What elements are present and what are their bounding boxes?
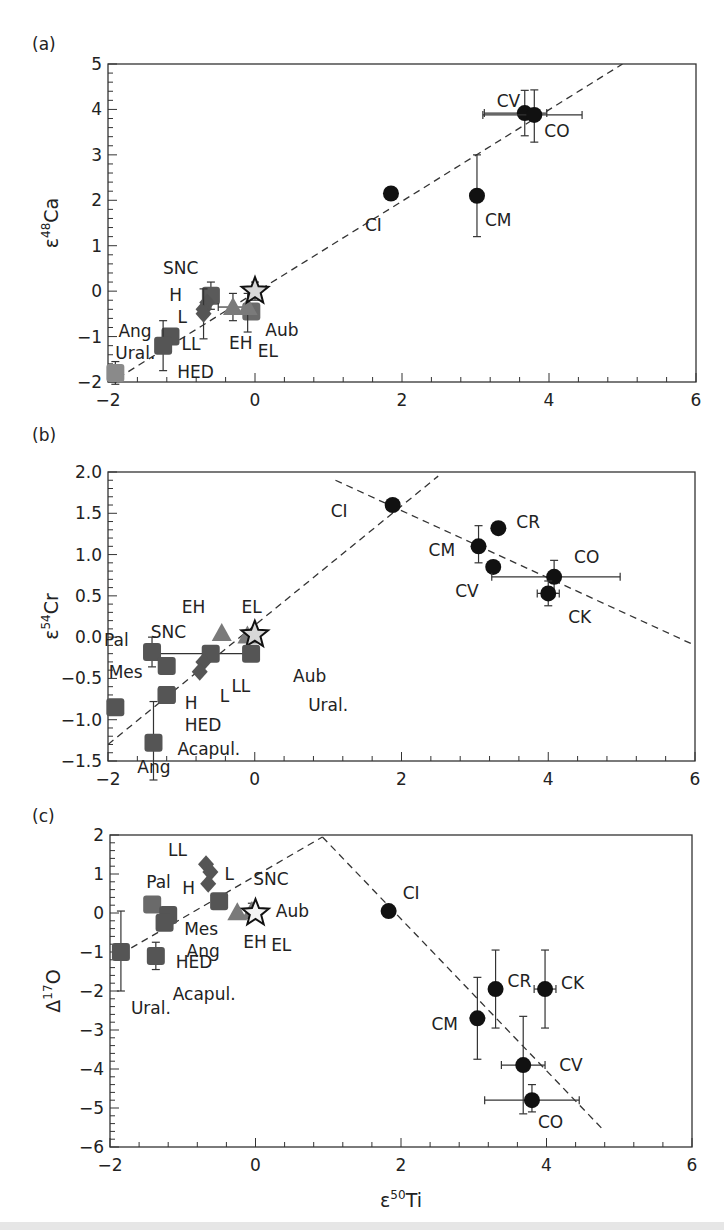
x-tick-label: 4 — [544, 390, 555, 410]
point-label: CM — [429, 540, 456, 560]
y-tick-label: −4 — [79, 1059, 104, 1079]
data-point: CK — [537, 581, 592, 627]
point-label: Ural. — [115, 343, 155, 363]
point-label: CI — [331, 501, 348, 521]
y-axis: −6−5−4−3−2−1012 — [79, 825, 119, 1157]
x-tick-label: 2 — [397, 390, 408, 410]
y-tick-label: −0.5 — [61, 668, 102, 688]
y-tick-label: −5 — [79, 1098, 104, 1118]
panel-0: (a)−20246−2−1012345ε48CaCVCOCICMSNCHLLLE… — [32, 34, 701, 410]
point-label: EH — [229, 333, 253, 353]
panel-2: (c)−20246−6−5−4−3−2−1012Δ17OCICRCKCMCVCO… — [32, 806, 697, 1175]
y-tick-label: 3 — [91, 145, 102, 165]
x-tick-label: −2 — [95, 390, 120, 410]
data-point: EH — [182, 597, 232, 641]
point-label: SNC — [151, 622, 186, 642]
y-tick-label: 2.0 — [75, 462, 102, 482]
circle-marker — [537, 981, 553, 997]
x-axis: −20246 — [97, 1138, 697, 1175]
circle-marker — [383, 185, 399, 201]
point-label: LL — [182, 334, 201, 354]
square-marker — [144, 734, 162, 752]
point-label: LL — [168, 840, 187, 860]
circle-marker — [485, 559, 501, 575]
x-tick-label: −2 — [95, 769, 120, 789]
panel-label: (b) — [32, 425, 56, 445]
point-label: CV — [455, 581, 479, 601]
point-label: L — [178, 307, 188, 327]
square-marker — [210, 892, 228, 910]
square-marker — [242, 645, 260, 663]
point-label: CO — [544, 121, 569, 141]
point-label: CK — [568, 607, 592, 627]
triangle-marker — [212, 623, 232, 641]
circle-marker — [469, 1010, 485, 1026]
x-tick-label: 0 — [249, 769, 260, 789]
circle-marker — [524, 1092, 540, 1108]
point-label: CV — [497, 91, 521, 111]
circle-marker — [469, 188, 485, 204]
point-label: CR — [516, 512, 540, 532]
point-label: Aub — [265, 320, 298, 340]
data-point: CK — [534, 950, 585, 1028]
data-points: CICRCMCVCOCKEHELAubPalSNCMesLLLAngHHEDUr… — [104, 497, 620, 780]
point-label: SNC — [253, 869, 288, 889]
data-point: Ural. — [308, 695, 348, 715]
point-label: CO — [574, 547, 599, 567]
circle-marker — [515, 1057, 531, 1073]
y-axis-label: ε48Ca — [39, 198, 62, 248]
data-point: CO — [492, 547, 620, 594]
circle-marker — [490, 520, 506, 536]
point-label: Aub — [293, 666, 326, 686]
data-point: Acapul. — [173, 984, 236, 1004]
data-point: CV — [455, 559, 501, 601]
y-tick-label: 5 — [91, 54, 102, 74]
point-label: H — [185, 693, 198, 713]
point-label: Mes — [184, 919, 218, 939]
data-point: CI — [365, 185, 399, 235]
point-label: EL — [271, 935, 292, 955]
y-tick-label: −1.5 — [61, 751, 102, 771]
x-tick-label: 0 — [250, 1155, 261, 1175]
panel-1: (b)−20246−1.5−1.0−0.50.00.51.01.52.0ε54C… — [32, 425, 700, 789]
circle-marker — [526, 107, 542, 123]
point-label: L — [224, 864, 234, 884]
y-tick-label: −6 — [79, 1137, 104, 1157]
point-label: HED — [185, 715, 222, 735]
point-label: Pal — [146, 872, 171, 892]
y-tick-label: −2 — [79, 981, 104, 1001]
data-point: CM — [469, 155, 512, 237]
bottom-band — [0, 1222, 724, 1230]
dashed-trend-line — [108, 476, 438, 744]
point-label: H — [182, 878, 195, 898]
point-label: HED — [177, 362, 214, 382]
data-point: Ural. — [106, 343, 155, 384]
point-label: CM — [431, 1014, 458, 1034]
circle-marker — [488, 981, 504, 997]
y-tick-label: −1 — [79, 942, 104, 962]
y-tick-label: −1 — [77, 327, 102, 347]
point-label: CI — [403, 883, 420, 903]
point-label: Mes — [109, 662, 143, 682]
data-point: SNC — [151, 622, 220, 663]
panel-label: (a) — [32, 34, 56, 54]
x-tick-label: 4 — [543, 769, 554, 789]
circle-marker — [540, 585, 556, 601]
point-label: H — [169, 285, 182, 305]
data-point: CR — [490, 512, 540, 536]
panel-label: (c) — [32, 806, 55, 826]
y-axis-label: Δ17O — [41, 969, 64, 1012]
point-label: EL — [241, 597, 262, 617]
x-tick-label: 0 — [250, 390, 261, 410]
point-label: Acapul. — [177, 739, 240, 759]
x-tick-label: 6 — [690, 769, 701, 789]
point-label: Ural. — [308, 695, 348, 715]
x-tick-label: 2 — [396, 1155, 407, 1175]
square-marker — [147, 947, 165, 965]
data-point: CI — [331, 497, 401, 521]
x-axis-label: ε50Ti — [380, 1188, 422, 1211]
point-label: Acapul. — [173, 984, 236, 1004]
y-tick-label: 1 — [93, 864, 104, 884]
y-tick-label: −1.0 — [61, 710, 102, 730]
x-tick-label: 4 — [541, 1155, 552, 1175]
